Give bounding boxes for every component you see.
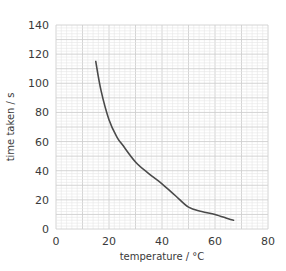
data-curve — [96, 61, 234, 220]
y-tick-label: 120 — [28, 48, 49, 61]
y-tick-label: 20 — [35, 194, 49, 207]
x-tick-label: 80 — [261, 235, 275, 248]
x-tick-label: 0 — [53, 235, 60, 248]
x-tick-label: 20 — [102, 235, 116, 248]
x-axis-label: temperature / °C — [120, 251, 205, 262]
grid — [56, 25, 268, 229]
y-axis-ticks: 020406080100120140 — [28, 19, 49, 236]
y-tick-label: 80 — [35, 106, 49, 119]
x-axis-ticks: 020406080 — [53, 235, 276, 248]
chart: 020406080100120140 020406080 temperature… — [0, 0, 286, 271]
x-tick-label: 60 — [208, 235, 222, 248]
y-tick-label: 0 — [42, 223, 49, 236]
y-axis-label: time taken / s — [5, 93, 16, 162]
x-tick-label: 40 — [155, 235, 169, 248]
y-tick-label: 100 — [28, 77, 49, 90]
y-tick-label: 40 — [35, 165, 49, 178]
y-tick-label: 60 — [35, 136, 49, 149]
y-tick-label: 140 — [28, 19, 49, 32]
